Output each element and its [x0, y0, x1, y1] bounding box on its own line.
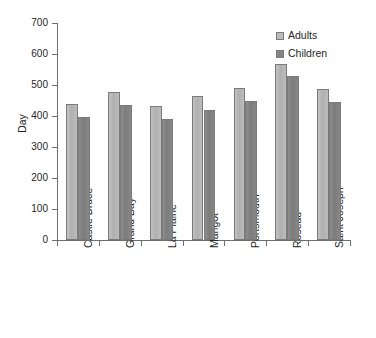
bar-children-portsmouth: [245, 101, 257, 241]
bar-children-saint-joseph: [329, 102, 341, 240]
bar-adults-castle-bruce: [66, 104, 78, 240]
chart-legend: AdultsChildren: [276, 29, 327, 65]
bar-children-marigot: [204, 110, 216, 240]
bar-children-roseau: [287, 76, 299, 240]
bar-adults-portsmouth: [234, 88, 246, 240]
bar-adults-grand-bay: [108, 92, 120, 240]
legend-label: Adults: [288, 29, 317, 42]
legend-item-adults[interactable]: Adults: [276, 29, 327, 42]
legend-label: Children: [288, 47, 327, 60]
bar-adults-saint-joseph: [317, 89, 329, 240]
bar-adults-roseau: [275, 64, 287, 240]
bar-children-la-plaine: [162, 119, 174, 240]
bar-children-castle-bruce: [78, 117, 90, 240]
legend-swatch-icon: [276, 50, 284, 58]
bar-children-grand-bay: [120, 105, 132, 240]
bar-adults-marigot: [192, 96, 204, 240]
legend-swatch-icon: [276, 32, 284, 40]
bar-adults-la-plaine: [150, 106, 162, 240]
legend-item-children[interactable]: Children: [276, 47, 327, 60]
bar-chart: Day 0100200300400500600700 Castle BruceG…: [0, 0, 376, 338]
